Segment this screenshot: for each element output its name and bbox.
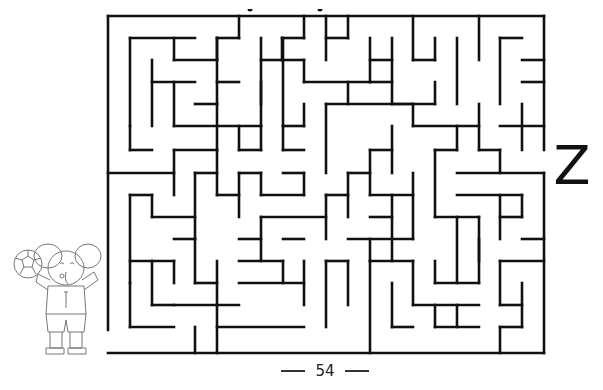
page-number: 54	[270, 358, 380, 384]
page-number-dash-left	[281, 370, 305, 372]
page-number-dash-right	[345, 370, 369, 372]
page-number-label: 54	[315, 362, 334, 380]
elephant-mascot-illustration	[8, 236, 108, 366]
maze-walls	[108, 16, 544, 353]
cropped-title-fragment	[240, 0, 340, 6]
goal-letter: Z	[552, 136, 592, 196]
